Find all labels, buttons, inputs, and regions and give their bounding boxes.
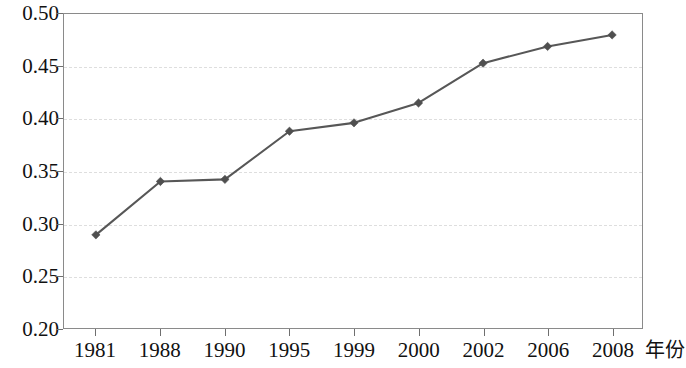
plot-area: [63, 13, 643, 329]
y-axis-tick-label: 0.35: [5, 161, 59, 182]
y-axis-tick-label: 0.25: [5, 266, 59, 287]
data-series-layer: [64, 14, 642, 328]
x-axis-tick-mark: [613, 329, 614, 336]
x-axis-tick-label: 1981: [60, 337, 130, 363]
x-axis-tick-mark: [354, 329, 355, 336]
x-axis-tick-label: 1990: [190, 337, 260, 363]
y-axis-tick-mark: [56, 276, 63, 277]
data-point-marker: [608, 31, 616, 39]
x-axis-tick-label: 2006: [513, 337, 583, 363]
x-axis-tick-mark: [289, 329, 290, 336]
data-point-marker: [350, 119, 358, 127]
y-axis-tick-label: 0.40: [5, 108, 59, 129]
x-axis-tick-label: 2008: [578, 337, 648, 363]
x-axis-tick-label: 2000: [384, 337, 454, 363]
x-axis-tick-marks: [0, 329, 686, 337]
x-axis-tick-label: 1988: [125, 337, 195, 363]
y-axis-tick-mark: [56, 118, 63, 119]
x-axis-tick-label: 2002: [449, 337, 519, 363]
y-axis-tick-mark: [56, 224, 63, 225]
x-axis-tick-mark: [160, 329, 161, 336]
y-axis-tick-label: 0.50: [5, 3, 59, 24]
y-axis-tick-label: 0.30: [5, 214, 59, 235]
y-axis-tick-mark: [56, 171, 63, 172]
x-axis-tick-mark: [419, 329, 420, 336]
y-axis-labels: 0.500.450.400.350.300.250.20: [0, 0, 59, 368]
x-axis-tick-mark: [484, 329, 485, 336]
chart-figure: 0.500.450.400.350.300.250.20 19811988199…: [0, 0, 686, 368]
x-axis-tick-label: 1999: [319, 337, 389, 363]
x-axis-tick-label: 1995: [254, 337, 324, 363]
line-series-path: [96, 35, 612, 235]
x-axis-labels: 198119881990199519992000200220062008: [0, 337, 686, 368]
y-axis-tick-mark: [56, 66, 63, 67]
data-point-markers: [92, 31, 617, 239]
x-axis-tick-mark: [548, 329, 549, 336]
y-axis-tick-label: 0.45: [5, 56, 59, 77]
x-axis-tick-mark: [95, 329, 96, 336]
y-axis-tick-mark: [56, 13, 63, 14]
x-axis-tick-mark: [225, 329, 226, 336]
x-axis-title: 年份: [645, 337, 685, 363]
data-point-marker: [543, 42, 551, 50]
